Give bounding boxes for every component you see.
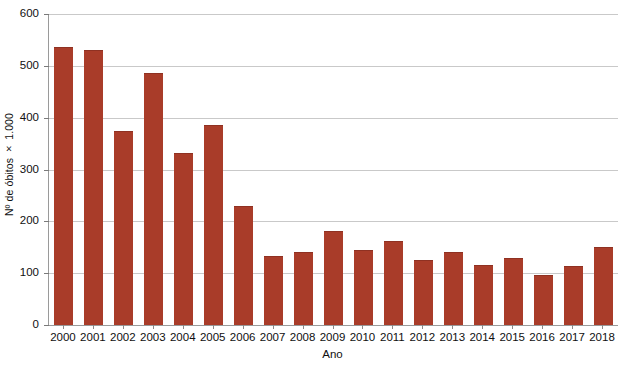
y-tick-label: 0 [14, 319, 44, 331]
bar [444, 252, 463, 325]
y-tick-label: 200 [14, 216, 44, 228]
x-tick-mark [572, 325, 573, 329]
y-tick-label: 300 [14, 164, 44, 176]
x-axis-title-text: Ano [322, 348, 342, 360]
bar [594, 247, 613, 325]
x-tick-label: 2002 [110, 331, 136, 345]
x-tick-mark [512, 325, 513, 329]
figure-caption [40, 364, 600, 368]
bar [384, 241, 403, 325]
x-tick-mark [153, 325, 154, 329]
x-tick-label: 2000 [50, 331, 76, 345]
x-tick-mark [602, 325, 603, 329]
x-tick-label: 2015 [499, 331, 525, 345]
bar [324, 231, 343, 325]
bar [534, 275, 553, 325]
x-tick-mark [392, 325, 393, 329]
x-axis-tick-marks [48, 325, 617, 330]
x-tick-label: 2014 [469, 331, 495, 345]
x-tick-mark [273, 325, 274, 329]
bar [264, 256, 283, 325]
plot-area [48, 14, 618, 326]
x-tick-label: 2010 [350, 331, 376, 345]
bar [144, 73, 163, 325]
bar [84, 50, 103, 325]
bars-layer [49, 14, 618, 325]
x-tick-mark [243, 325, 244, 329]
bar [504, 258, 523, 325]
x-tick-mark [452, 325, 453, 329]
x-tick-label: 2011 [380, 331, 405, 345]
x-tick-label: 2009 [320, 331, 346, 345]
x-tick-label: 2008 [290, 331, 316, 345]
x-axis-title: Ano [48, 348, 617, 360]
y-axis-tick-labels: 0100200300400500600 [14, 0, 44, 368]
x-tick-mark [542, 325, 543, 329]
x-tick-mark [123, 325, 124, 329]
x-axis-tick-labels: 2000200120022003200420052006200720082009… [48, 331, 617, 347]
bar [174, 153, 193, 325]
bar [474, 265, 493, 325]
bar [54, 47, 73, 325]
bar [564, 266, 583, 325]
x-tick-label: 2017 [559, 331, 585, 345]
x-tick-label: 2007 [260, 331, 286, 345]
x-tick-mark [303, 325, 304, 329]
x-tick-label: 2001 [80, 331, 106, 345]
y-tick-label: 600 [14, 8, 44, 20]
y-tick-label: 400 [14, 112, 44, 124]
bar [294, 252, 313, 325]
x-tick-mark [482, 325, 483, 329]
x-tick-mark [362, 325, 363, 329]
x-tick-label: 2004 [170, 331, 196, 345]
x-tick-mark [213, 325, 214, 329]
x-tick-mark [93, 325, 94, 329]
x-tick-mark [63, 325, 64, 329]
bar-chart-figure: Nº de óbitos × 1.000 0100200300400500600… [0, 0, 626, 368]
x-tick-label: 2012 [410, 331, 436, 345]
y-tick-label: 100 [14, 267, 44, 279]
bar [204, 125, 223, 325]
x-tick-label: 2003 [140, 331, 166, 345]
bar [234, 206, 253, 325]
x-tick-label: 2018 [589, 331, 615, 345]
x-tick-label: 2013 [439, 331, 465, 345]
bar [414, 260, 433, 325]
x-tick-label: 2005 [200, 331, 226, 345]
bar [354, 250, 373, 325]
x-tick-mark [183, 325, 184, 329]
x-tick-label: 2006 [230, 331, 256, 345]
x-tick-label: 2016 [529, 331, 555, 345]
x-tick-mark [333, 325, 334, 329]
bar [114, 131, 133, 325]
x-tick-mark [422, 325, 423, 329]
y-tick-label: 500 [14, 60, 44, 72]
